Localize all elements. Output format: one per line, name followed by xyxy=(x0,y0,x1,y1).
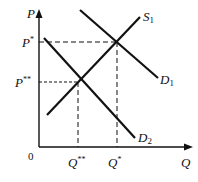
x-axis-arrow-icon xyxy=(184,144,193,151)
demand-curve-d2 xyxy=(44,38,135,138)
s1-label: S1 xyxy=(143,9,154,25)
y-axis-label: P xyxy=(26,6,35,21)
origin-label: 0 xyxy=(28,150,34,162)
d2-label: D2 xyxy=(137,130,152,146)
q-star-label: Q* xyxy=(108,155,121,170)
x-axis-label: Q xyxy=(181,155,191,170)
p-star-label: P* xyxy=(21,35,34,50)
q-dstar-label: Q** xyxy=(68,155,85,170)
d1-label: D1 xyxy=(159,72,174,88)
p-dstar-label: P** xyxy=(14,75,31,90)
supply-demand-diagram: P Q 0 S1 D1 D2 P* P** Q** Q* xyxy=(0,0,198,182)
supply-curve-s1 xyxy=(47,17,140,115)
y-axis-arrow-icon xyxy=(36,9,43,18)
